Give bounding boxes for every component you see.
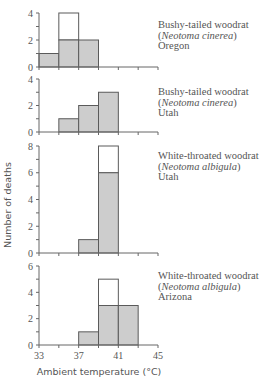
- y-tick-label: 6: [28, 167, 33, 178]
- panel-legend-oregon-cinerea: Bushy-tailed woodrat (Neotoma cinerea) O…: [158, 20, 249, 52]
- histogram-figure: 02402402468024633374145 Ambient temperat…: [0, 0, 272, 385]
- panels: 02402402468024633374145: [28, 8, 163, 362]
- y-tick-label: 2: [28, 35, 33, 46]
- y-tick-label: 0: [28, 340, 33, 351]
- histogram-panel: 024: [28, 74, 158, 138]
- y-tick-label: 0: [28, 248, 33, 259]
- shaded-bar: [79, 40, 99, 67]
- y-tick-label: 2: [28, 221, 33, 232]
- shaded-bar: [118, 306, 138, 346]
- y-tick-label: 0: [28, 62, 33, 73]
- legend-location: Oregon: [158, 41, 249, 52]
- panel-legend-utah-albigula: White-throated woodrat (Neotoma albigula…: [158, 151, 259, 183]
- shaded-bar: [59, 40, 79, 67]
- shaded-bar: [39, 54, 59, 68]
- shaded-bar: [79, 332, 99, 345]
- open-bar: [59, 13, 79, 40]
- y-tick-label: 4: [28, 287, 33, 298]
- histogram-panel: 02468: [28, 141, 158, 259]
- panel-legend-arizona-albigula: White-throated woodrat (Neotoma albigula…: [158, 271, 259, 303]
- y-tick-label: 4: [28, 8, 33, 19]
- y-tick-label: 4: [28, 74, 33, 85]
- y-tick-label: 8: [28, 141, 33, 152]
- histogram-panel: 024: [28, 8, 158, 73]
- y-axis-title: Number of deaths: [2, 162, 13, 248]
- y-tick-label: 2: [28, 100, 33, 111]
- x-tick-label: 33: [34, 350, 44, 361]
- legend-location: Arizona: [158, 292, 259, 303]
- open-bar: [99, 146, 119, 173]
- y-tick-label: 2: [28, 313, 33, 324]
- y-tick-label: 6: [28, 261, 33, 272]
- shaded-bar: [79, 240, 99, 253]
- histogram-panel: 024633374145: [28, 261, 163, 362]
- x-tick-label: 41: [113, 350, 123, 361]
- shaded-bar: [59, 119, 79, 132]
- legend-location: Utah: [158, 172, 259, 183]
- x-axis-title: Ambient temperature (°C): [37, 366, 162, 377]
- x-tick-label: 37: [74, 350, 84, 361]
- shaded-bar: [99, 92, 119, 132]
- panel-legend-utah-cinerea: Bushy-tailed woodrat (Neotoma cinerea) U…: [158, 87, 249, 119]
- x-tick-label: 45: [153, 350, 163, 361]
- shaded-bar: [79, 106, 99, 133]
- shaded-bar: [99, 173, 119, 253]
- open-bar: [99, 279, 119, 305]
- legend-location: Utah: [158, 108, 249, 119]
- y-tick-label: 4: [28, 194, 33, 205]
- y-tick-label: 0: [28, 127, 33, 138]
- shaded-bar: [99, 306, 119, 346]
